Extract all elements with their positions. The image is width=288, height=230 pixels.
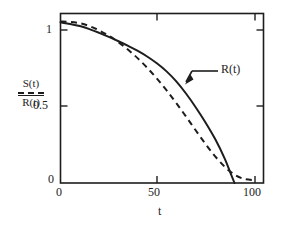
y-axis-title-numerator: S(t) (9, 78, 53, 91)
curve-label-r-of-t: R(t) (221, 63, 240, 75)
x-tick-label-100: 100 (243, 186, 261, 198)
y-tick-label-1: 1 (46, 23, 52, 35)
y-axis-title: S(t) R(t) (9, 78, 53, 108)
figure-chart-st-rt: 1 0.5 0 0 50 100 t S(t) R(t) R(t) (0, 0, 288, 230)
x-tick-label-50: 50 (148, 186, 160, 198)
x-axis-title: t (158, 205, 161, 217)
x-tick-label-0: 0 (56, 186, 62, 198)
series-line-r-of-t (61, 22, 235, 183)
y-tick-label-0: 0 (48, 173, 54, 185)
axis-ticks (61, 14, 264, 184)
annotation-arrow (185, 71, 218, 85)
series-layer (61, 22, 254, 183)
series-line-s-of-t (61, 22, 254, 181)
y-axis-title-fraction-bar (18, 92, 44, 94)
y-axis-title-denominator: R(t) (18, 95, 44, 109)
plot-frame (61, 14, 264, 184)
